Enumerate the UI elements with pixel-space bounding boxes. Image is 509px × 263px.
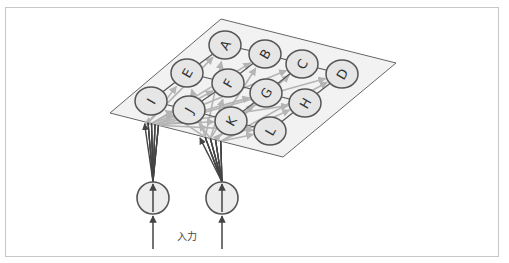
input-node [206, 182, 238, 249]
node-h: H [289, 89, 321, 117]
node-f: F [212, 69, 244, 97]
weight-arrow [148, 118, 149, 123]
node-g: G [250, 79, 282, 107]
node-d: D [326, 60, 358, 88]
node-e: E [171, 59, 203, 87]
node-j: J [173, 96, 205, 124]
input-line [205, 137, 222, 182]
node-a: A [209, 31, 241, 59]
input-label: 入力 [177, 230, 197, 242]
node-k: K [215, 107, 247, 135]
input-node [137, 182, 169, 249]
node-c: C [286, 50, 318, 78]
node-l: L [254, 117, 286, 145]
node-b: B [249, 40, 281, 68]
som-network-diagram: ABCDEFGHIJKL 入力 [0, 0, 509, 263]
node-i: I [135, 87, 167, 115]
